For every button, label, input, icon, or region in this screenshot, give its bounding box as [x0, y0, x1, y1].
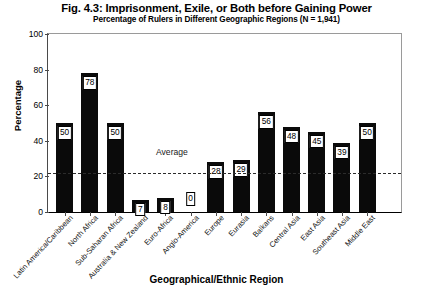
y-tick-mark-100 [45, 34, 49, 35]
y-tick-label-20: 20 [17, 172, 43, 180]
bar-value-label: 50 [360, 126, 374, 140]
y-tick-mark-60 [45, 105, 49, 106]
x-category-label: Europe [203, 214, 226, 237]
average-line [48, 173, 401, 174]
x-axis-title: Geographical/Ethnic Region [0, 274, 433, 285]
bar-value-label: 50 [57, 126, 71, 140]
x-category-label: Balkans [252, 214, 276, 239]
y-tick-label-0: 0 [17, 208, 43, 216]
y-tick-mark-20 [45, 176, 49, 177]
x-category-label: Eurasia [228, 214, 251, 238]
plot-inner: 02040608010050785078028295648453950Avera… [48, 34, 401, 212]
y-tick-label-80: 80 [17, 66, 43, 74]
bar-value-label: 0 [186, 192, 196, 206]
bar-value-label: 78 [83, 76, 97, 90]
y-tick-label-40: 40 [17, 137, 43, 145]
plot-area: 02040608010050785078028295648453950Avera… [47, 33, 402, 213]
y-tick-mark-40 [45, 141, 49, 142]
y-tick-mark-80 [45, 70, 49, 71]
bar-value-label: 45 [310, 135, 324, 149]
chart-title: Fig. 4.3: Imprisonment, Exile, or Both b… [0, 2, 433, 14]
y-tick-mark-0 [45, 212, 49, 213]
bar-value-label: 8 [161, 201, 171, 215]
x-category-label: Latin America/Caribbean [12, 214, 75, 280]
bar-value-label: 29 [234, 163, 248, 177]
bar [81, 73, 98, 212]
chart-subtitle: Percentage of Rulers in Different Geogra… [0, 15, 433, 25]
y-tick-label-100: 100 [17, 30, 43, 38]
bar-value-label: 48 [284, 130, 298, 144]
bar-value-label: 39 [335, 146, 349, 160]
y-tick-label-60: 60 [17, 101, 43, 109]
bar-value-label: 56 [259, 115, 273, 129]
chart-figure: Fig. 4.3: Imprisonment, Exile, or Both b… [0, 0, 433, 295]
bar-value-label: 50 [108, 126, 122, 140]
average-line-label: Average [156, 147, 188, 157]
